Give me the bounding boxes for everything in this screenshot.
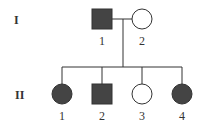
affected-male-I-1 [92, 9, 112, 29]
individual-label-I-1: 1 [99, 34, 105, 48]
affected-female-II-4 [172, 84, 192, 104]
generation-label-II: II [15, 88, 25, 102]
individual-label-II-3: 3 [139, 109, 145, 123]
individual-label-II-4: 4 [179, 109, 185, 123]
unaffected-female-I-2 [132, 9, 152, 29]
individual-label-II-1: 1 [59, 109, 65, 123]
unaffected-female-II-3 [132, 84, 152, 104]
generation-label-I: I [14, 13, 19, 27]
pedigree-chart: I II 1 2 1 2 3 4 [0, 0, 203, 129]
affected-female-II-1 [52, 84, 72, 104]
affected-male-II-2 [92, 84, 112, 104]
individual-label-I-2: 2 [139, 34, 145, 48]
individual-label-II-2: 2 [99, 109, 105, 123]
